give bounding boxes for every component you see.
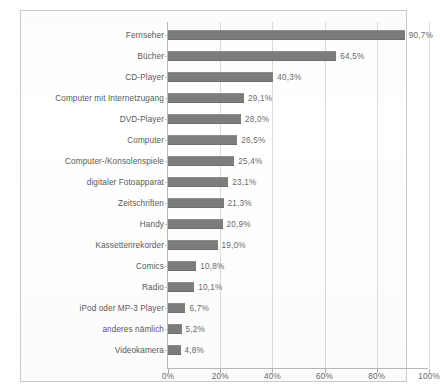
- bar: [168, 72, 273, 82]
- bar: [168, 198, 224, 208]
- x-axis-tick-label: 0%: [162, 372, 174, 381]
- category-label: Fernseher: [0, 25, 164, 46]
- bar: [168, 30, 405, 40]
- bar-row: DVD-Player28,0%: [168, 109, 428, 130]
- bar: [168, 156, 234, 166]
- category-label: DVD-Player: [0, 109, 164, 130]
- category-label: Computer: [0, 130, 164, 151]
- x-axis-tick-label: 20%: [212, 372, 229, 381]
- bar-row: Kassettenrekorder19,0%: [168, 235, 428, 256]
- bar: [168, 177, 228, 187]
- bar-value-label: 64,5%: [340, 46, 364, 67]
- bar-row: iPod oder MP-3 Player6,7%: [168, 298, 428, 319]
- category-label: digitaler Fotoapparat: [0, 172, 164, 193]
- bar: [168, 282, 194, 292]
- gridline-100pct: [429, 22, 430, 368]
- bar: [168, 51, 336, 61]
- bar-value-label: 23,1%: [232, 172, 256, 193]
- x-axis-tick-label: 80%: [368, 372, 385, 381]
- bar-row: Comics10,8%: [168, 256, 428, 277]
- bar: [168, 345, 181, 355]
- bar-value-label: 20,9%: [227, 214, 251, 235]
- bar-value-label: 10,1%: [198, 277, 222, 298]
- bar-row: Fernseher90,7%: [168, 25, 428, 46]
- bar-value-label: 25,4%: [238, 151, 262, 172]
- category-label: Computer mit Internetzugang: [0, 88, 164, 109]
- bar-row: anderes nämlich5,2%: [168, 319, 428, 340]
- category-label: Handy: [0, 214, 164, 235]
- bar-row: Computer26,5%: [168, 130, 428, 151]
- bar-row: CD-Player40,3%: [168, 67, 428, 88]
- category-label: Videokamera: [0, 340, 164, 361]
- bar: [168, 135, 237, 145]
- bar-row: Videokamera4,8%: [168, 340, 428, 361]
- bar-value-label: 4,8%: [185, 340, 204, 361]
- bar-row: Computer-/Konsolenspiele25,4%: [168, 151, 428, 172]
- x-axis-tick-label: 40%: [264, 372, 281, 381]
- bar-row: Computer mit Internetzugang29,1%: [168, 88, 428, 109]
- bar-value-label: 90,7%: [409, 25, 433, 46]
- category-label: Bücher: [0, 46, 164, 67]
- bar-value-label: 19,0%: [222, 235, 246, 256]
- bar-value-label: 26,5%: [241, 130, 265, 151]
- bar-value-label: 10,8%: [200, 256, 224, 277]
- category-label: Computer-/Konsolenspiele: [0, 151, 164, 172]
- bar-value-label: 6,7%: [189, 298, 208, 319]
- category-label: Radio: [0, 277, 164, 298]
- plot-area: Fernseher90,7%Bücher64,5%CD-Player40,3%C…: [167, 22, 428, 369]
- category-label: iPod oder MP-3 Player: [0, 298, 164, 319]
- bar-row: Handy20,9%: [168, 214, 428, 235]
- category-label: Comics: [0, 256, 164, 277]
- bar: [168, 261, 196, 271]
- bar: [168, 114, 241, 124]
- bar: [168, 324, 182, 334]
- bar-value-label: 5,2%: [186, 319, 205, 340]
- bar: [168, 93, 244, 103]
- category-label: Kassettenrekorder: [0, 235, 164, 256]
- bar-row: digitaler Fotoapparat23,1%: [168, 172, 428, 193]
- bar: [168, 303, 185, 313]
- category-label: CD-Player: [0, 67, 164, 88]
- chart-frame: Fernseher90,7%Bücher64,5%CD-Player40,3%C…: [20, 10, 407, 382]
- x-axis-tick-label: 100%: [418, 372, 440, 381]
- bar-value-label: 40,3%: [277, 67, 301, 88]
- bar: [168, 240, 218, 250]
- bar-value-label: 21,3%: [228, 193, 252, 214]
- bar-row: Bücher64,5%: [168, 46, 428, 67]
- x-axis-tick-label: 60%: [316, 372, 333, 381]
- bar-value-label: 29,1%: [248, 88, 272, 109]
- bar-value-label: 28,0%: [245, 109, 269, 130]
- bar: [168, 219, 223, 229]
- bar-row: Radio10,1%: [168, 277, 428, 298]
- bar-row: Zeitschriften21,3%: [168, 193, 428, 214]
- category-label: Zeitschriften: [0, 193, 164, 214]
- category-label: anderes nämlich: [0, 319, 164, 340]
